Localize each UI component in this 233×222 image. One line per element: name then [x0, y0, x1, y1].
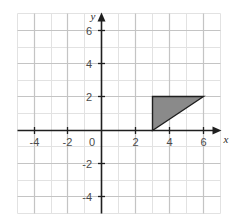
y-axis-label: y — [90, 10, 96, 22]
x-axis-label: x — [223, 133, 229, 145]
y-tick-label-minus2: -2 — [82, 158, 92, 170]
x-tick-label-zero: 0 — [89, 136, 95, 148]
coordinate-plane-figure: -4 -2 0 2 4 6 6 4 2 -2 -4 x y — [0, 0, 233, 222]
x-tick-label-6: 6 — [200, 136, 206, 148]
x-tick-label-4: 4 — [166, 136, 172, 148]
x-tick-label-minus4: -4 — [30, 136, 40, 148]
x-tick-label-2: 2 — [132, 136, 138, 148]
coordinate-plane-svg: -4 -2 0 2 4 6 6 4 2 -2 -4 x y — [0, 0, 233, 222]
y-tick-label-4: 4 — [86, 58, 92, 70]
y-tick-label-2: 2 — [86, 91, 92, 103]
y-tick-label-6: 6 — [86, 25, 92, 37]
y-tick-label-minus4: -4 — [82, 191, 92, 203]
x-tick-label-minus2: -2 — [63, 136, 73, 148]
